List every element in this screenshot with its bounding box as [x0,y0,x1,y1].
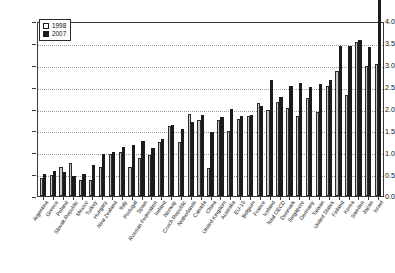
legend-item-2007: 2007 [43,30,66,38]
bar-2007 [299,83,302,196]
legend-swatch-2007-icon [43,31,49,37]
bar-group [304,23,314,196]
bar-2007 [72,176,75,196]
bar-group [215,23,225,196]
bar-group [225,23,235,196]
bar-group [314,23,324,196]
legend-label-2007: 2007 [52,31,66,37]
bar-group [334,23,344,196]
bar-group [363,23,373,196]
bar-group [353,23,363,196]
y-tick-mark [32,197,36,198]
bar-2007 [181,129,184,196]
bar-2007 [112,152,115,196]
legend-item-1998: 1998 [43,22,66,30]
bar-group [275,23,285,196]
bar-2007 [319,84,322,196]
y-tick-mark [32,22,36,23]
bar-group [97,23,107,196]
chart-legend: 1998 2007 [39,19,71,41]
bar-group [206,23,216,196]
bar-group [373,23,383,196]
bar-group [127,23,137,196]
bar-group [117,23,127,196]
bar-2007 [161,139,164,196]
legend-label-1998: 1998 [52,23,66,29]
bar-group [186,23,196,196]
bar-group [58,23,68,196]
bar-2007 [122,147,125,196]
bar-group [235,23,245,196]
bar-group [324,23,334,196]
y-tick-mark [32,175,36,176]
bar-group [196,23,206,196]
y-tick-mark [32,131,36,132]
y-tick-mark [32,44,36,45]
bar-2007 [339,46,342,196]
bar-group [245,23,255,196]
bar-group [107,23,117,196]
bar-group [146,23,156,196]
bar-2007 [201,115,204,196]
bar-2007 [191,122,194,196]
bar-group [48,23,58,196]
bar-group [68,23,78,196]
bar-2007 [82,174,85,196]
legend-swatch-1998-icon [43,23,49,29]
bar-group [87,23,97,196]
bar-2007 [43,174,46,196]
bar-2007 [368,47,371,196]
y-tick-mark [32,88,36,89]
bar-group [344,23,354,196]
bar-2007 [329,80,332,196]
bar-2007 [210,132,213,196]
bar-2007 [289,86,292,196]
bar-2007 [63,172,66,196]
bar-group [176,23,186,196]
bar-2007 [378,0,381,196]
bar-2007 [92,165,95,196]
bar-2007 [348,46,351,196]
bar-2007 [171,125,174,196]
bar-2007 [279,97,282,196]
bar-2007 [230,109,233,196]
bar-group [137,23,147,196]
bar-2007 [240,116,243,196]
bar-2007 [309,87,312,196]
x-tick-label: Israel [373,200,385,214]
bar-group [284,23,294,196]
bar-2007 [102,154,105,196]
bar-2007 [132,145,135,196]
bar-2007 [250,115,253,196]
y-tick-mark [32,66,36,67]
bar-group [77,23,87,196]
bar-2007 [358,40,361,196]
bar-group [38,23,48,196]
bars-layer [38,23,383,196]
bar-2007 [151,148,154,196]
bar-2007 [141,141,144,196]
bar-group [265,23,275,196]
bar-group [255,23,265,196]
bar-2007 [260,106,263,196]
bar-group [166,23,176,196]
bar-2007 [220,117,223,196]
bar-group [294,23,304,196]
y-tick-mark [32,110,36,111]
bar-2007 [53,171,56,196]
bar-chart: 0.00.51.01.52.02.53.03.54.0 ArgentinaGre… [0,0,395,273]
y-tick-mark [32,153,36,154]
bar-group [156,23,166,196]
bar-2007 [270,80,273,196]
